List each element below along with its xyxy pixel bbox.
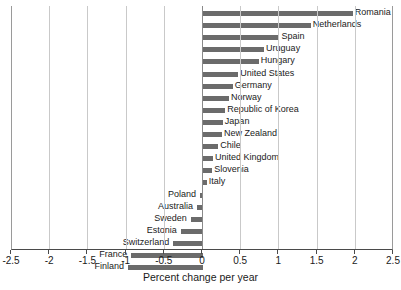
x-tick <box>277 250 278 254</box>
bar[interactable] <box>203 23 311 28</box>
zero-line <box>202 6 203 249</box>
gridline <box>126 6 127 249</box>
bar-label: Estonia <box>147 225 177 236</box>
x-tick <box>354 250 355 254</box>
x-tick-label: -0.5 <box>155 255 172 267</box>
bar-label: Slovenia <box>214 164 249 175</box>
bar-label: New Zealand <box>224 128 277 139</box>
x-axis-title: Percent change per year <box>0 271 401 283</box>
bar[interactable] <box>203 108 225 113</box>
x-tick-label: 1 <box>276 255 282 267</box>
bar-label: Spain <box>281 31 304 42</box>
x-tick <box>239 250 240 254</box>
x-tick-label: -2.5 <box>2 255 19 267</box>
bar[interactable] <box>203 120 223 125</box>
x-tick <box>48 250 49 254</box>
x-tick-label: 0.5 <box>233 255 247 267</box>
gridline <box>87 6 88 249</box>
x-tick <box>163 250 164 254</box>
x-tick <box>10 250 11 254</box>
bar-label: Poland <box>168 189 196 200</box>
gridline <box>317 6 318 249</box>
gridline <box>164 6 165 249</box>
gridline <box>278 6 279 249</box>
bar[interactable] <box>203 35 279 40</box>
bar-chart: RomaniaNetherlandsSpainUruguayHungaryUni… <box>0 0 401 290</box>
bar-label: Switzerland <box>123 237 170 248</box>
x-tick <box>201 250 202 254</box>
bar[interactable] <box>203 168 212 173</box>
bar[interactable] <box>203 59 259 64</box>
gridline <box>240 6 241 249</box>
bar-label: Sweden <box>154 213 187 224</box>
bar-label: Chile <box>220 140 241 151</box>
x-tick-label: 1.5 <box>310 255 324 267</box>
x-tick <box>316 250 317 254</box>
bar-label: Japan <box>225 116 250 127</box>
bar-label: Italy <box>209 176 226 187</box>
bar[interactable] <box>203 156 213 161</box>
bar[interactable] <box>203 132 222 137</box>
x-tick-label: -2 <box>45 255 54 267</box>
bar[interactable] <box>203 72 238 77</box>
x-tick-label: -1 <box>121 255 130 267</box>
x-tick-label: 2.5 <box>386 255 400 267</box>
bar-label: United States <box>240 68 294 79</box>
bar-label: United Kingdom <box>215 152 279 163</box>
x-tick <box>392 250 393 254</box>
gridline <box>49 6 50 249</box>
bar[interactable] <box>203 84 233 89</box>
bar-label: Uruguay <box>266 43 300 54</box>
x-tick <box>125 250 126 254</box>
x-tick-label: 2 <box>352 255 358 267</box>
bar[interactable] <box>203 180 207 185</box>
bar-label: Norway <box>231 92 262 103</box>
plot-area: RomaniaNetherlandsSpainUruguayHungaryUni… <box>11 6 393 250</box>
bar-label: Republic of Korea <box>227 104 299 115</box>
bar[interactable] <box>181 229 203 234</box>
bar-label: Romania <box>355 7 391 18</box>
bar[interactable] <box>203 96 229 101</box>
x-tick-label: -1.5 <box>79 255 96 267</box>
bar[interactable] <box>203 47 264 52</box>
gridline <box>355 6 356 249</box>
x-tick-label: 0 <box>199 255 205 267</box>
bar[interactable] <box>173 241 203 246</box>
bar[interactable] <box>203 144 218 149</box>
x-tick <box>86 250 87 254</box>
